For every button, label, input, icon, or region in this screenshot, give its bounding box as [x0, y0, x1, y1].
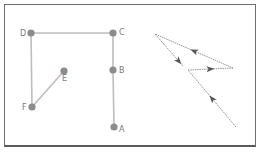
graph-edges — [31, 33, 114, 127]
directed-path — [155, 34, 236, 127]
node-D — [27, 29, 34, 36]
node-label-F: F — [22, 103, 27, 112]
edge-DF — [31, 33, 32, 107]
node-label-A: A — [119, 125, 125, 134]
edge-AB — [113, 70, 114, 127]
graph-labels: ABCDEF — [20, 28, 125, 134]
graph-nodes — [27, 29, 117, 130]
node-label-C: C — [119, 28, 125, 37]
diagram-canvas: ABCDEF — [0, 0, 260, 156]
edge-FE — [32, 71, 64, 107]
node-C — [109, 29, 116, 36]
node-B — [109, 66, 116, 73]
node-label-D: D — [20, 29, 26, 38]
node-A — [110, 123, 117, 130]
node-F — [28, 103, 35, 110]
node-label-E: E — [62, 74, 67, 83]
arrow-icon — [189, 47, 199, 56]
node-label-B: B — [119, 66, 125, 75]
